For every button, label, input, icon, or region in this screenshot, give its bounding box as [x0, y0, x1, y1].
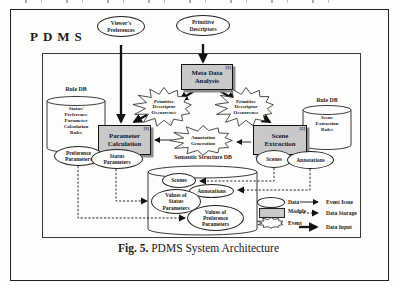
figure-number: Fig. 5. — [118, 242, 148, 254]
primitive-descriptor-occurrence-event-left: Primitive Descriptor Occurrence — [133, 86, 195, 128]
semantic-db-title: Semantic Structure DB — [158, 154, 248, 160]
legend-data-label: Data — [288, 199, 299, 205]
legend-event-label: Event — [288, 220, 302, 226]
pdo-right-label: Primitive Descriptor Occurrence — [215, 86, 277, 128]
db-values-preference-node: Values of Preference Parameters — [187, 205, 244, 231]
legend-event-shape — [256, 216, 286, 230]
status-parameters-node: Status Parameters — [91, 149, 143, 169]
db-annotations-label: Annotations — [197, 188, 226, 194]
parameter-calculation-label: Parameter Calculation — [108, 132, 142, 147]
legend-module-label: Module — [288, 208, 306, 214]
db-scenes-node: Scenes — [162, 173, 196, 188]
rule-db-right-title: Rule DB — [303, 97, 351, 103]
db-values-preference-label: Values of Preference Parameters — [202, 209, 229, 227]
annotation-generation-label: Annotation Generation — [170, 124, 236, 157]
meta-data-analysis-ref: [1] — [225, 65, 231, 70]
primitive-descriptor-occurrence-event-right: Primitive Descriptor Occurrence — [215, 86, 277, 128]
figure-caption: Fig. 5. PDMS System Architecture — [10, 242, 387, 254]
preference-parameters-label: Preference Parameters — [65, 150, 92, 162]
scenes-output-label: Scenes — [266, 156, 282, 162]
rule-db-left-content: Status/ Preference Parameter Calculation… — [49, 106, 103, 135]
figure-title: PDMS System Architecture — [148, 242, 279, 254]
legend-data-input-label: Data Input — [326, 224, 352, 230]
viewers-preferences-label: Viewer's Preferences — [107, 20, 134, 32]
primitive-descriptors-label: Primitive Descriptors — [189, 19, 216, 31]
annotation-generation-event: Annotation Generation — [170, 124, 236, 157]
primitive-descriptors-node: Primitive Descriptors — [176, 15, 230, 36]
meta-data-analysis-label: Meta Data Analysis — [192, 69, 223, 84]
status-parameters-label: Status Parameters — [103, 153, 130, 165]
annotations-output-node: Annotations — [287, 151, 334, 169]
figure-page: PDMS Viewer's Pr — [0, 0, 399, 286]
annotations-output-label: Annotations — [296, 157, 325, 163]
legend-event-issue-label: Event Issue — [326, 199, 353, 205]
rule-db-left-title: Rule DB — [50, 86, 102, 92]
legend-data-shape — [257, 197, 285, 208]
viewers-preferences-node: Viewer's Preferences — [97, 16, 145, 37]
pdo-left-label: Primitive Descriptor Occurrence — [133, 86, 195, 128]
db-values-status-label: Values of Status Parameters — [162, 192, 189, 210]
starburst-shape — [256, 216, 286, 230]
scene-extraction-label: Scene Extraction — [265, 132, 296, 147]
legend-data-storage-label: Data Storage — [326, 210, 357, 216]
rule-db-right-content: Scene Extraction Rules — [305, 115, 349, 133]
db-scenes-label: Scenes — [171, 177, 187, 183]
